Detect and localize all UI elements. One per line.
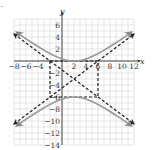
svg-text:−4: −4 bbox=[49, 81, 60, 90]
svg-text:−6: −6 bbox=[20, 62, 31, 71]
svg-text:12: 12 bbox=[129, 62, 139, 71]
svg-text:4: 4 bbox=[55, 33, 60, 42]
svg-text:10: 10 bbox=[117, 62, 127, 71]
svg-text:−4: −4 bbox=[32, 62, 43, 71]
svg-text:2: 2 bbox=[72, 62, 77, 71]
grid bbox=[14, 19, 134, 145]
svg-text:−8: −8 bbox=[49, 105, 60, 114]
svg-text:8: 8 bbox=[108, 62, 113, 71]
corner-mark: . bbox=[1, 0, 3, 9]
svg-text:2: 2 bbox=[55, 45, 60, 54]
x-axis-label: x bbox=[140, 57, 145, 66]
hyperbola-graph: −8−6−424810126642−2−4−6−8−10−12−14 x y . bbox=[0, 0, 154, 150]
y-axis-label: y bbox=[59, 7, 65, 16]
svg-text:−14: −14 bbox=[44, 141, 60, 150]
svg-text:−12: −12 bbox=[44, 129, 60, 138]
svg-text:6: 6 bbox=[55, 21, 60, 30]
svg-text:−2: −2 bbox=[49, 69, 60, 78]
svg-text:−10: −10 bbox=[44, 117, 60, 126]
svg-text:−8: −8 bbox=[8, 62, 19, 71]
axes bbox=[14, 12, 140, 145]
